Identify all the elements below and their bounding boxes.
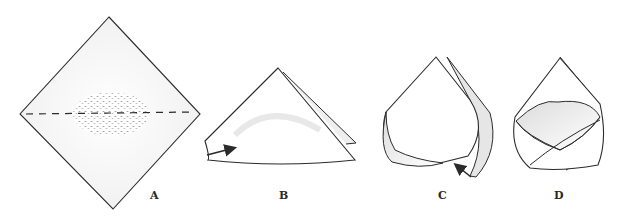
panel-b-triangle — [205, 68, 356, 164]
panel-c-one-fold — [383, 57, 493, 177]
label-c: C — [438, 189, 447, 202]
panel-d-pouch — [514, 57, 604, 170]
label-d: D — [554, 189, 564, 202]
label-b: B — [279, 189, 288, 202]
panel-a-napkin-diamond — [20, 17, 200, 209]
arrow-icon — [456, 165, 471, 177]
label-a: A — [150, 189, 159, 202]
folding-diagram: A B C D — [0, 0, 618, 220]
rice-mound — [73, 92, 149, 136]
diagram-drawing — [0, 0, 618, 220]
